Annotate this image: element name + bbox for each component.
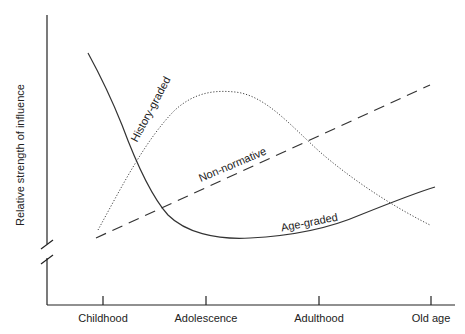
label-non-normative: Non-normative [197,145,268,184]
x-tick-label-adulthood: Adulthood [294,312,344,324]
x-tick-label-old-age: Old age [412,312,451,324]
label-age-graded: Age-graded [280,211,339,234]
chart: Childhood Adolescence Adulthood Old age … [0,0,465,334]
y-axis-label: Relative strength of influence [14,84,26,226]
x-tick-label-adolescence: Adolescence [175,312,238,324]
label-history-graded: History-graded [128,74,172,143]
x-tick-label-childhood: Childhood [78,312,128,324]
